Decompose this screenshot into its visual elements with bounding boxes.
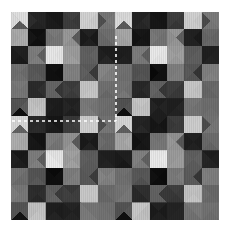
quilt-mosaic-image (11, 12, 219, 220)
figure-root (0, 0, 230, 244)
